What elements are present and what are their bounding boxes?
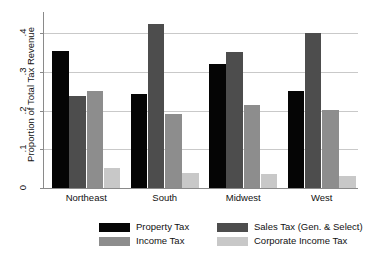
bar xyxy=(261,174,278,188)
bar xyxy=(244,105,261,188)
bar-group xyxy=(52,14,120,188)
legend-swatch-icon-corporate-income-tax xyxy=(217,237,248,246)
y-tick-label: .3 xyxy=(17,60,28,84)
bar-chart: Proportion of Total Tax Revenue Property… xyxy=(0,0,366,256)
bar xyxy=(209,64,226,189)
y-tick-mark xyxy=(40,111,44,112)
bar xyxy=(305,33,322,188)
y-tick-label: 0 xyxy=(17,176,28,200)
x-axis-line xyxy=(44,188,358,189)
bar xyxy=(165,114,182,188)
bar xyxy=(131,94,148,188)
bar xyxy=(288,91,305,188)
legend-item-property-tax: Property Tax xyxy=(99,222,189,232)
legend-label-income-tax: Income Tax xyxy=(136,236,184,246)
legend-item-corporate-income-tax: Corporate Income Tax xyxy=(217,236,347,246)
y-tick-mark xyxy=(40,149,44,150)
legend-label-corporate-income-tax: Corporate Income Tax xyxy=(254,236,347,246)
y-tick-mark xyxy=(40,188,44,189)
legend-item-sales-tax: Sales Tax (Gen. & Select) xyxy=(217,222,363,232)
y-tick-label: .4 xyxy=(17,21,28,45)
legend-label-property-tax: Property Tax xyxy=(136,222,189,232)
x-axis-category-label: West xyxy=(268,192,366,203)
legend-swatch-icon-sales-tax xyxy=(217,223,248,232)
bar xyxy=(69,96,86,188)
bar xyxy=(148,24,165,188)
legend-item-income-tax: Income Tax xyxy=(99,236,184,246)
bar-group xyxy=(288,14,356,188)
bar-group xyxy=(209,14,277,188)
bar xyxy=(182,173,199,188)
legend-swatch-icon-property-tax xyxy=(99,223,130,232)
bar-group xyxy=(131,14,199,188)
bar xyxy=(226,52,243,188)
y-tick-mark xyxy=(40,33,44,34)
chart-legend: Property Tax Income Tax Sales Tax (Gen. … xyxy=(99,222,347,252)
legend-label-sales-tax: Sales Tax (Gen. & Select) xyxy=(254,222,363,232)
y-tick-label: .1 xyxy=(17,137,28,161)
bar xyxy=(104,168,121,188)
bar xyxy=(52,51,69,188)
y-tick-label: .2 xyxy=(17,98,28,122)
y-tick-mark xyxy=(40,72,44,73)
bar xyxy=(322,110,339,188)
bar xyxy=(339,176,356,188)
legend-swatch-icon-income-tax xyxy=(99,237,130,246)
bar xyxy=(87,91,104,188)
